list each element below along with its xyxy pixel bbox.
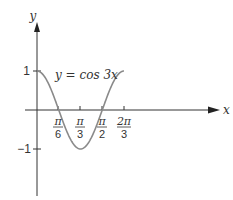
- chart: y x 1 −1 y = cos 3x π 6 π 3 π 2 2π 3: [0, 0, 233, 200]
- tick-label-pi2: π 2: [97, 115, 107, 140]
- tick-label-pi3: π 3: [75, 115, 85, 140]
- svg-text:3: 3: [121, 128, 127, 140]
- x-axis-arrow-icon: [208, 107, 220, 114]
- svg-text:π: π: [97, 115, 106, 128]
- svg-text:π: π: [53, 115, 62, 128]
- x-axis-label: x: [223, 103, 230, 117]
- svg-text:6: 6: [55, 128, 61, 140]
- y-tick-label-1: 1: [23, 64, 30, 78]
- svg-text:π: π: [75, 115, 84, 128]
- svg-text:2π: 2π: [116, 115, 132, 128]
- y-axis-arrow-icon: [34, 22, 40, 32]
- svg-text:3: 3: [77, 128, 83, 140]
- y-axis-label: y: [29, 9, 37, 23]
- curve-annotation: y = cos 3x: [54, 68, 118, 82]
- tick-label-pi6: π 6: [53, 115, 63, 140]
- svg-text:2: 2: [99, 128, 105, 140]
- tick-label-2pi3: 2π 3: [116, 115, 132, 140]
- y-tick-label-neg1: −1: [17, 142, 31, 156]
